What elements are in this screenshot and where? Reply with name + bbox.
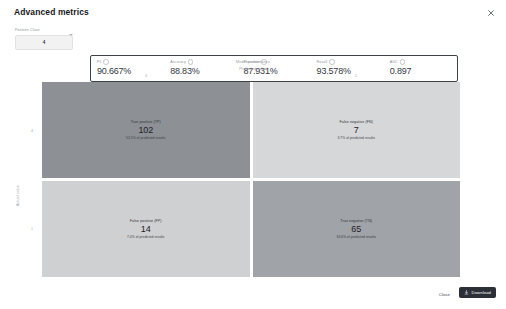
page-title: Advanced metrics <box>14 7 89 17</box>
cell-value: 102 <box>138 125 153 135</box>
positive-class-value: 4 <box>43 40 46 45</box>
download-button[interactable]: Download <box>459 287 496 298</box>
cell-value: 14 <box>141 224 151 234</box>
cell-value: 65 <box>351 224 361 234</box>
matrix-cell-false-negative[interactable]: False negative (FN) 7 3.7% of predicted … <box>253 82 461 178</box>
modal-header: Advanced metrics <box>0 0 506 24</box>
matrix-grid: True positive (TP) 102 52.5% of predicte… <box>42 82 460 277</box>
advanced-metrics-modal: Advanced metrics Positive Class 4 F1 90.… <box>0 0 506 309</box>
positive-class-label: Positive Class <box>15 28 77 33</box>
close-icon[interactable] <box>486 8 496 18</box>
y-tick-label: 4 <box>31 129 33 133</box>
positive-class-select[interactable]: 4 <box>15 35 73 50</box>
controls-row: Positive Class 4 F1 90.667% Accuracy 8 <box>0 28 506 54</box>
cell-label: False positive (FP) <box>130 219 162 223</box>
chart-ylabel: Actual value <box>16 185 20 206</box>
cell-label: True positive (TP) <box>131 120 161 124</box>
cell-subtext: 3.7% of predicted results <box>337 136 375 140</box>
cell-subtext: 52.5% of predicted results <box>126 136 165 140</box>
matrix-cell-true-negative[interactable]: True negative (TN) 65 34.6% of predicted… <box>253 181 461 277</box>
x-tick-label: 1 <box>355 74 357 78</box>
y-tick-label: 1 <box>31 227 33 231</box>
chart-title: Model performance <box>0 60 506 64</box>
cell-value: 7 <box>354 125 359 135</box>
x-tick-label: 4 <box>145 74 147 78</box>
close-button[interactable]: Close <box>435 289 454 300</box>
matrix-cell-false-positive[interactable]: False positive (FP) 14 7.4% of predicted… <box>42 181 250 277</box>
download-icon <box>464 290 469 295</box>
cell-subtext: 7.4% of predicted results <box>127 235 165 239</box>
positive-class-selector: Positive Class 4 <box>15 28 77 50</box>
matrix-cell-true-positive[interactable]: True positive (TP) 102 52.5% of predicte… <box>42 82 250 178</box>
chart-xlabel: Predicted value <box>0 67 506 71</box>
cell-label: True negative (TN) <box>340 219 372 223</box>
chevron-down-icon <box>69 34 73 36</box>
confusion-matrix-chart: Model performance Predicted value Actual… <box>0 58 506 282</box>
cell-label: False negative (FN) <box>340 120 373 124</box>
cell-subtext: 34.6% of predicted results <box>337 235 376 239</box>
modal-footer: Close Download <box>0 282 506 309</box>
download-button-label: Download <box>472 290 491 295</box>
